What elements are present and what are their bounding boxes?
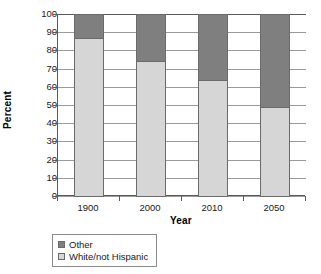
- bar-segment-other: [198, 14, 228, 81]
- legend-label-other: Other: [69, 239, 93, 250]
- chart-figure: Percent 1009080706050403020100 190020002…: [0, 0, 321, 274]
- bar-segment-white-not-hispanic: [198, 80, 228, 197]
- bar-group: [58, 14, 306, 196]
- x-tick-label-1900: 1900: [64, 202, 112, 213]
- x-tick-label-2050: 2050: [250, 202, 298, 213]
- x-axis-title: Year: [57, 215, 305, 226]
- x-tick-label-2000: 2000: [126, 202, 174, 213]
- x-tick-mark: [119, 196, 120, 201]
- legend-item-other: Other: [58, 238, 148, 250]
- x-tick-mark: [57, 196, 58, 201]
- bar-segment-other: [260, 14, 290, 108]
- x-tick-mark: [181, 196, 182, 201]
- y-axis-title: Percent: [0, 75, 16, 145]
- legend-item-white-not-hispanic: White/not Hispanic: [58, 250, 148, 262]
- bar-segment-other: [136, 14, 166, 62]
- legend-swatch-white-icon: [58, 253, 65, 260]
- bar-2000: [136, 14, 166, 196]
- x-tick-mark: [305, 196, 306, 201]
- legend-label-white-not-hispanic: White/not Hispanic: [69, 251, 148, 262]
- bar-2010: [198, 14, 228, 196]
- y-axis-ticks: 1009080706050403020100: [30, 14, 57, 196]
- bar-segment-white-not-hispanic: [136, 61, 166, 197]
- bar-segment-white-not-hispanic: [260, 107, 290, 197]
- legend-swatch-other-icon: [58, 241, 65, 248]
- chart-legend: Other White/not Hispanic: [52, 234, 157, 267]
- bar-1900: [74, 14, 104, 196]
- bar-segment-other: [74, 14, 104, 39]
- bar-2050: [260, 14, 290, 196]
- bar-segment-white-not-hispanic: [74, 38, 104, 197]
- x-tick-mark: [243, 196, 244, 201]
- plot-area: [57, 14, 305, 196]
- x-tick-label-2010: 2010: [188, 202, 236, 213]
